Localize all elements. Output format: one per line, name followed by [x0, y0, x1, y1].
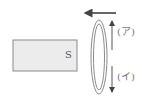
current-label-a: (ア): [117, 27, 135, 37]
magnet-pole-label: S: [65, 50, 72, 60]
diagram-canvas: [0, 0, 144, 103]
coil: [91, 20, 107, 94]
current-label-i: (イ): [117, 72, 135, 82]
